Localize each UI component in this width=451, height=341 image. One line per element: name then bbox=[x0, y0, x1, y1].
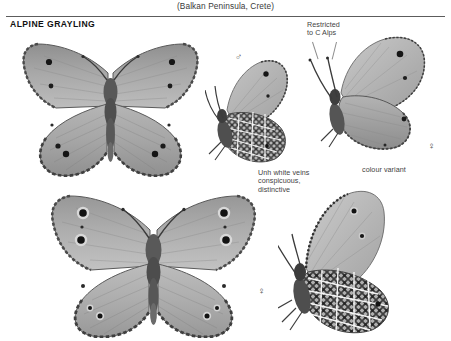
annotation-restricted-line-2: to C Alps bbox=[307, 29, 340, 37]
specimen-male-underside bbox=[205, 56, 295, 168]
annotation-unh-veins: Unh white veins conspicuous, distinctive bbox=[258, 169, 310, 194]
plate-page: (Balkan Peninsula, Crete) ALPINE GRAYLIN… bbox=[0, 0, 451, 341]
specimen-male-upperside bbox=[8, 28, 213, 188]
annotation-colour-variant-line-1: colour variant bbox=[362, 166, 406, 174]
annotation-unh-line-3: distinctive bbox=[258, 186, 310, 194]
specimen-female-underside bbox=[278, 188, 446, 340]
specimen-female-variant-underside bbox=[305, 33, 445, 151]
female-symbol-bottom: ♀ bbox=[258, 286, 265, 296]
female-symbol-variant: ♀ bbox=[428, 141, 435, 151]
annotation-restricted: Restricted to C Alps bbox=[307, 21, 340, 38]
header-rule bbox=[6, 16, 445, 17]
running-head: (Balkan Peninsula, Crete) bbox=[0, 1, 451, 11]
male-symbol: ♂ bbox=[235, 52, 242, 62]
annotation-colour-variant: colour variant bbox=[362, 166, 406, 174]
specimen-female-upperside bbox=[38, 186, 270, 338]
